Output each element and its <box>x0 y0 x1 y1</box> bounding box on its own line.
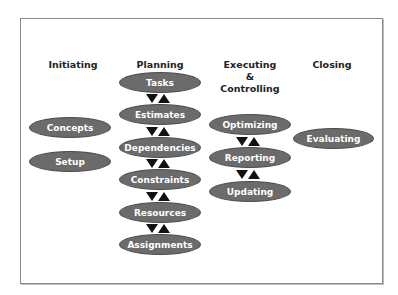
connector-reporting-updating <box>236 170 262 180</box>
header-executing-line1: Executing <box>215 59 285 71</box>
arrow-up-icon <box>158 159 170 168</box>
connector-estimates-dependencies <box>146 127 172 137</box>
arrow-down-icon <box>236 137 248 146</box>
arrow-up-icon <box>248 170 260 179</box>
node-constraints: Constraints <box>119 169 201 190</box>
header-closing: Closing <box>302 59 362 71</box>
arrow-down-icon <box>146 159 158 168</box>
arrow-up-icon <box>158 192 170 201</box>
connector-resources-assignments <box>146 224 172 234</box>
connector-dependencies-constraints <box>146 159 172 169</box>
node-resources: Resources <box>119 202 201 223</box>
node-concepts: Concepts <box>29 117 111 138</box>
arrow-down-icon <box>146 127 158 136</box>
node-optimizing: Optimizing <box>209 114 291 135</box>
connector-tasks-estimates <box>146 94 172 104</box>
node-updating: Updating <box>209 181 291 202</box>
node-assignments: Assignments <box>119 234 201 255</box>
arrow-up-icon <box>248 137 260 146</box>
arrow-down-icon <box>146 94 158 103</box>
header-planning: Planning <box>125 59 195 71</box>
header-executing-line2: & <box>215 71 285 83</box>
arrow-up-icon <box>158 224 170 233</box>
arrow-up-icon <box>158 127 170 136</box>
node-estimates: Estimates <box>119 104 201 125</box>
node-setup: Setup <box>29 151 111 172</box>
arrow-up-icon <box>158 94 170 103</box>
node-evaluating: Evaluating <box>293 128 374 149</box>
node-reporting: Reporting <box>209 147 291 168</box>
header-initiating: Initiating <box>38 59 108 71</box>
connector-constraints-resources <box>146 192 172 202</box>
node-dependencies: Dependencies <box>119 137 201 158</box>
arrow-down-icon <box>236 170 248 179</box>
arrow-down-icon <box>146 224 158 233</box>
header-executing-controlling: Executing & Controlling <box>215 59 285 95</box>
arrow-down-icon <box>146 192 158 201</box>
node-tasks: Tasks <box>119 72 201 93</box>
header-executing-line3: Controlling <box>215 83 285 95</box>
connector-optimizing-reporting <box>236 137 262 147</box>
